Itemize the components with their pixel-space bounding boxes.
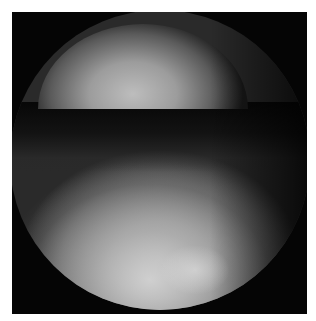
light-reflection: [160, 245, 230, 295]
circular-field-of-view: [12, 12, 307, 310]
endoscopic-image-frame: [12, 12, 307, 314]
